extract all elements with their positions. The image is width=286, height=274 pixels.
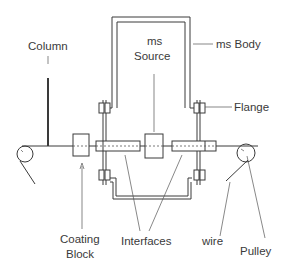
mass-spectrometry-wire-interface-diagram: Column ms Source ms Body Flange Coating … [0, 0, 286, 274]
label-ms-body: ms Body [216, 38, 261, 50]
label-ms-source-1: ms [147, 35, 163, 47]
ms-body [108, 17, 194, 108]
pulley-leader [247, 156, 265, 238]
label-wire: wire [201, 235, 223, 247]
label-flange: Flange [234, 101, 269, 113]
coating-block [73, 134, 89, 156]
flange-bottom-left [99, 170, 110, 180]
label-ms-source-2: Source [134, 50, 170, 62]
ms-body-lower [110, 178, 192, 199]
label-interfaces: Interfaces [121, 235, 172, 247]
pulley-left [17, 146, 35, 184]
flange-top-right [194, 103, 205, 113]
wire-leader [220, 182, 230, 236]
label-column: Column [28, 40, 68, 52]
interfaces-leader-left [125, 155, 140, 231]
label-coating-block-1: Coating [60, 233, 100, 245]
flange-bottom-right [194, 170, 205, 180]
pulley-right [226, 144, 255, 181]
interfaces-leader-right [149, 155, 182, 231]
flange-top-left [99, 103, 110, 113]
label-pulley: Pulley [240, 245, 272, 257]
label-coating-block-2: Block [66, 248, 94, 260]
